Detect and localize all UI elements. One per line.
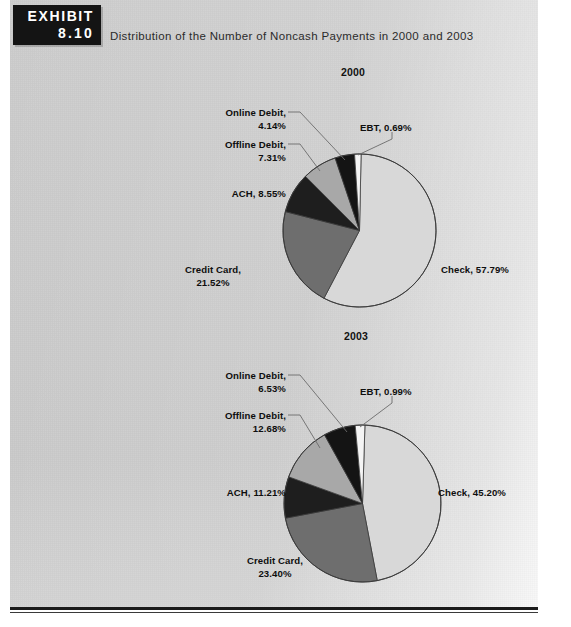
- chart-title-2003: 2003: [344, 330, 368, 342]
- label-offline-debit-2003-line1: Offline Debit,: [166, 410, 286, 423]
- label-offline-debit-2000-line1: Offline Debit,: [176, 139, 286, 152]
- exhibit-title: Distribution of the Number of Noncash Pa…: [110, 30, 473, 42]
- chart-title-2000: 2000: [341, 66, 365, 78]
- label-credit-card-2003-line1: Credit Card,: [210, 555, 340, 568]
- pie-chart-2000-svg: [281, 152, 438, 309]
- label-check-2003: Check, 45.20%: [438, 487, 548, 500]
- label-offline-debit-2000: Offline Debit, 7.31%: [176, 139, 286, 164]
- label-ebt-2000: EBT, 0.69%: [360, 122, 456, 135]
- exhibit-label: EXHIBIT: [13, 9, 94, 24]
- label-online-debit-2003: Online Debit, 6.53%: [178, 370, 286, 395]
- label-credit-card-2000-line2: 21.52%: [148, 277, 278, 290]
- label-credit-card-2003: Credit Card, 23.40%: [210, 555, 340, 580]
- label-ach-2000: ACH, 8.55%: [158, 188, 286, 201]
- label-online-debit-2003-line2: 6.53%: [178, 383, 286, 396]
- label-check-2000: Check, 57.79%: [441, 264, 551, 277]
- exhibit-page: EXHIBIT 8.10 Distribution of the Number …: [0, 0, 571, 627]
- label-online-debit-2003-line1: Online Debit,: [178, 370, 286, 383]
- pie-chart-2000: [281, 152, 438, 309]
- label-online-debit-2000-line1: Online Debit,: [178, 107, 286, 120]
- label-credit-card-2000: Credit Card, 21.52%: [148, 264, 278, 289]
- footer-rule-thick: [10, 607, 538, 610]
- label-ebt-2003: EBT, 0.99%: [360, 386, 456, 399]
- exhibit-panel: [10, 0, 538, 608]
- pie-slice-check-2003: [363, 425, 442, 581]
- label-online-debit-2000-line2: 4.14%: [178, 120, 286, 133]
- label-offline-debit-2000-line2: 7.31%: [176, 152, 286, 165]
- label-ach-2003: ACH, 11.21%: [148, 487, 286, 500]
- label-credit-card-2000-line1: Credit Card,: [148, 264, 278, 277]
- exhibit-number-badge: EXHIBIT 8.10: [13, 5, 101, 45]
- label-online-debit-2000: Online Debit, 4.14%: [178, 107, 286, 132]
- footer-rule-thin: [10, 612, 538, 613]
- exhibit-number: 8.10: [13, 25, 94, 41]
- label-credit-card-2003-line2: 23.40%: [210, 568, 340, 581]
- label-offline-debit-2003: Offline Debit, 12.68%: [166, 410, 286, 435]
- label-offline-debit-2003-line2: 12.68%: [166, 423, 286, 436]
